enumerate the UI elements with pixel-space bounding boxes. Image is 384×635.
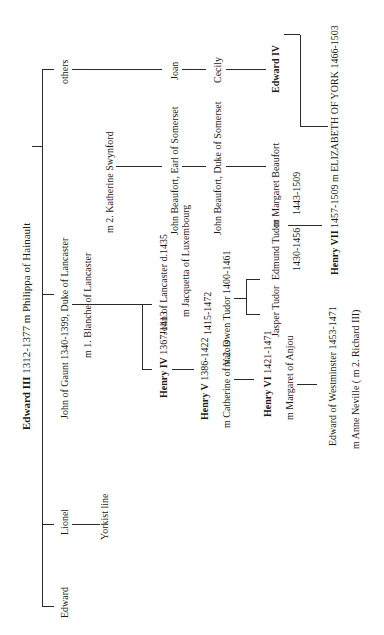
edward-iii-heading: Edward III 1312-1377 m Philippa of Haina…: [20, 223, 32, 430]
drop-john-lancaster: [142, 304, 152, 305]
tudor-marriage-line: [288, 225, 322, 226]
yorkist-line-label: Yorkist line: [99, 494, 111, 541]
cecily-label: Cecily: [212, 57, 224, 83]
drop-lionel: [42, 524, 54, 525]
title-connector: [32, 146, 42, 147]
edward4-line: [284, 34, 300, 35]
family-tree-page: Edward III 1312-1377 m Philippa of Haina…: [0, 0, 384, 635]
john-beaufort-earl-label: John Beaufort, Earl of Somerset: [169, 106, 181, 235]
anne-neville-label: m Anne Neville ( m 2. Richard III): [350, 310, 362, 449]
sibling-bar: [42, 70, 43, 607]
edward-of-westminster-label: Edward of Westminster 1453-1471: [327, 306, 339, 446]
john-beaufort-duke-label: John Beaufort, Duke of Somerset: [212, 101, 224, 235]
duke-to-margaret-line: [226, 166, 266, 167]
lionel-label: Lionel: [59, 509, 71, 535]
henry-v-label: Henry V 1386-1422: [199, 337, 211, 420]
owen-tudor-label: m 2. Owen Tudor 1400-1461: [221, 251, 233, 367]
henry-v-name: Henry V: [199, 383, 210, 420]
john-of-lancaster-label: John of Lancaster d.1435: [158, 234, 170, 335]
henry-vii-label: Henry VII 1457-1509 m ELIZABETH OF YORK …: [329, 25, 341, 275]
henry-v-dates: 1386-1422: [199, 337, 210, 380]
margaret-of-anjou-label: m Margaret of Anjou: [284, 335, 296, 420]
henry-vi-label: Henry VI 1421-1471: [262, 331, 274, 418]
lancaster-children-bar: [142, 305, 143, 370]
henry-iv-name: Henry IV: [158, 357, 169, 398]
lionel-line: [72, 524, 100, 525]
gaunt-spouse-2: m 2. Katherine Swynford: [104, 131, 116, 233]
drop-edmund: [246, 279, 260, 280]
jasper-tudor-label: Jasper Tudor: [270, 286, 282, 337]
others-label: others: [59, 60, 71, 84]
edward-label: Edward: [59, 587, 71, 618]
edmund-dates: 1430-1456: [291, 228, 303, 271]
owen-line: [234, 298, 246, 299]
others-line: [72, 69, 162, 70]
henry-vi-dates: 1421-1471: [262, 331, 273, 374]
elizabeth-of-york-label: m ELIZABETH OF YORK 1466-1503: [329, 25, 340, 182]
henry-vi-name: Henry VI: [262, 376, 273, 417]
edward-iv-name: Edward IV: [270, 45, 281, 93]
gaunt-m2-line: [116, 166, 162, 167]
edward4-elizabeth-bar: [300, 35, 301, 127]
tudor-children-bar: [246, 280, 247, 315]
henry6-line: [297, 384, 317, 385]
margaret-dates: 1443-1509: [291, 172, 303, 215]
earl-to-duke-line: [182, 166, 206, 167]
drop-jasper: [246, 314, 260, 315]
gaunt-m1-line: [72, 304, 142, 305]
joan-label: Joan: [169, 62, 181, 80]
edward-iii-dates: 1312-1377: [20, 326, 32, 374]
henry5-line: [234, 379, 254, 380]
henry-vii-name: Henry VII: [329, 230, 340, 275]
cecily-line: [226, 69, 266, 70]
joan-line: [182, 69, 206, 70]
elizabeth-line: [300, 126, 328, 127]
john-of-gaunt-label: John of Gaunt 1340-1399, Duke of Lancast…: [59, 238, 71, 419]
drop-henry4: [142, 369, 152, 370]
henry4-line: [172, 369, 194, 370]
jacquetta-dates: 1415-1472: [202, 292, 214, 335]
gaunt-spouse-1: m 1. Blanche of Lancaster: [82, 253, 94, 358]
jacquetta-label: m Jacquetta of Luxembourg: [180, 205, 192, 317]
henry-vii-dates: 1457-1509: [329, 185, 340, 228]
edward-iii-spouse: m Philippa of Hainault: [20, 223, 32, 324]
drop-gaunt: [42, 294, 54, 295]
drop-others: [42, 69, 54, 70]
drop-edward: [42, 606, 54, 607]
margaret-beaufort-label: m Margaret Beaufort: [270, 143, 282, 227]
edmund-tudor-label: Edmund Tudor: [270, 220, 282, 280]
edward-iii-name: Edward III: [20, 377, 32, 431]
edward-iv-label: Edward IV: [270, 45, 282, 93]
